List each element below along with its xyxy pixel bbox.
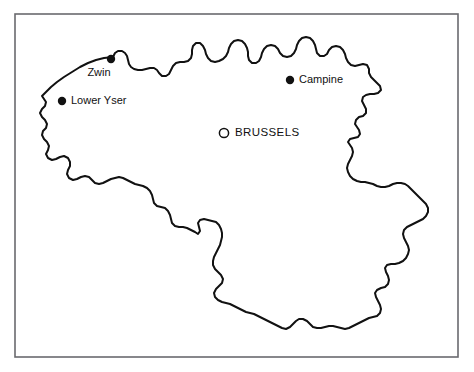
belgium-country-outline	[40, 37, 428, 329]
map-figure: ZwinLower YserCampineBRUSSELS	[0, 0, 474, 372]
open-circle-icon-brussels	[219, 128, 228, 137]
map-canvas: ZwinLower YserCampineBRUSSELS	[0, 0, 474, 372]
place-label-lower-yser: Lower Yser	[71, 94, 127, 106]
filled-dot-icon-lower-yser	[58, 97, 66, 105]
place-label-zwin: Zwin	[87, 66, 110, 78]
place-label-campine: Campine	[299, 73, 343, 85]
filled-dot-icon-campine	[286, 76, 294, 84]
place-label-brussels: BRUSSELS	[235, 126, 300, 138]
filled-dot-icon-zwin	[107, 55, 115, 63]
